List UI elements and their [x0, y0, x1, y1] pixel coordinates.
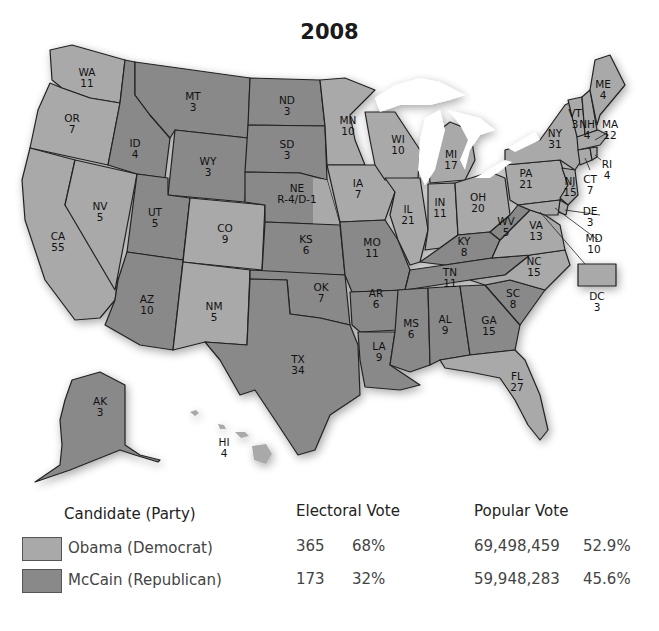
svg-text:AZ10: AZ10	[140, 293, 154, 316]
svg-text:NC15: NC15	[526, 255, 541, 278]
svg-text:CT7: CT7	[583, 173, 597, 196]
state-DC[interactable]	[578, 264, 616, 286]
state-FL[interactable]	[440, 350, 548, 440]
svg-text:CA55: CA55	[51, 230, 66, 253]
svg-text:VA13: VA13	[529, 219, 544, 242]
svg-text:DC3: DC3	[589, 290, 604, 313]
svg-text:MO11: MO11	[363, 236, 380, 259]
svg-text:MA12: MA12	[602, 118, 619, 141]
svg-text:NY31: NY31	[548, 127, 563, 150]
svg-text:WA11: WA11	[79, 66, 97, 89]
svg-text:MN10: MN10	[340, 114, 357, 137]
state-AK[interactable]	[35, 372, 160, 482]
svg-text:GA15: GA15	[481, 314, 497, 337]
svg-text:OH20: OH20	[470, 191, 486, 214]
svg-text:DE3: DE3	[583, 205, 598, 228]
svg-text:RI4: RI4	[602, 158, 612, 181]
svg-text:TX34: TX34	[290, 353, 305, 376]
svg-text:NJ15: NJ15	[563, 175, 576, 198]
svg-text:PA21: PA21	[519, 167, 533, 190]
us-electoral-map: WA11 OR7 CA55 NV5 ID4 MT3 WY3 UT5 CO9 AZ…	[0, 0, 659, 631]
lake-superior	[375, 78, 465, 112]
svg-text:TN11: TN11	[442, 266, 457, 289]
svg-text:MI17: MI17	[444, 148, 457, 171]
svg-text:IN11: IN11	[433, 196, 446, 219]
state-HI[interactable]	[190, 410, 272, 464]
state-PA[interactable]	[505, 160, 568, 205]
svg-text:FL27: FL27	[510, 370, 523, 393]
svg-text:MD10: MD10	[585, 232, 602, 255]
svg-text:HI4: HI4	[219, 436, 230, 459]
state-ME[interactable]	[590, 55, 625, 125]
svg-text:WI10: WI10	[391, 133, 404, 156]
